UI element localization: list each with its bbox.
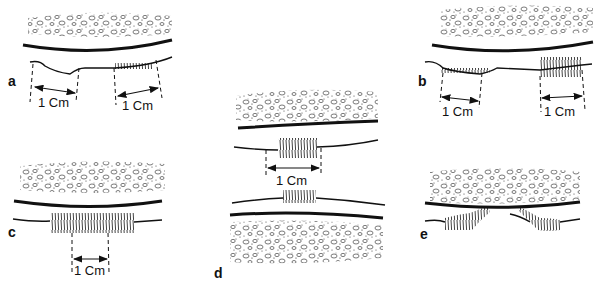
bone-block-icon — [236, 90, 378, 122]
panel-c: 1 Cm c — [8, 161, 165, 278]
measure-arrow — [442, 97, 478, 101]
lesion-hatch-icon — [115, 63, 153, 69]
measure-arrow — [118, 88, 158, 96]
lesion-hatch-icon — [440, 68, 490, 73]
bone-margin-line — [23, 40, 172, 50]
dash-line — [108, 233, 109, 272]
panel-e: e — [420, 168, 580, 242]
bone-block-icon — [230, 221, 383, 264]
lesion-hatch-icon — [445, 206, 490, 230]
bone-margin-line — [432, 42, 593, 51]
bone-margin-line — [230, 213, 383, 218]
lesion-hatch-icon — [283, 190, 316, 203]
panel-letter: e — [420, 226, 428, 242]
measure-label: 1 Cm — [122, 98, 153, 113]
measure-arrow — [35, 87, 75, 93]
bone-margin-line — [14, 201, 162, 207]
measure-label: 1 Cm — [442, 104, 473, 119]
panel-letter: a — [8, 73, 16, 89]
measure-arrow — [542, 96, 582, 98]
panel-letter: b — [418, 73, 427, 89]
lesion-diagram: 1 Cm 1 Cm a 1 Cm 1 Cm b 1 Cm c — [0, 0, 601, 286]
dash-line — [30, 64, 33, 102]
bone-block-icon — [28, 12, 172, 37]
measure-label: 1 Cm — [74, 263, 105, 278]
panel-letter: d — [214, 265, 223, 281]
dash-line — [156, 60, 162, 98]
lesion-hatch-icon — [50, 213, 134, 233]
measure-label: 1 Cm — [276, 173, 307, 188]
lesion-hatch-icon — [540, 57, 582, 77]
lesion-hatch-icon — [278, 138, 317, 158]
bone-block-icon — [440, 5, 593, 36]
panel-a: 1 Cm 1 Cm a — [8, 12, 172, 113]
bone-block-icon — [430, 168, 580, 204]
panel-letter: c — [8, 224, 16, 240]
dash-line — [114, 68, 116, 105]
dash-line — [479, 73, 482, 108]
dash-line — [582, 70, 585, 110]
measure-label: 1 Cm — [544, 104, 575, 119]
measure-label: 1 Cm — [38, 95, 69, 110]
panel-d: 1 Cm d — [214, 90, 385, 281]
panel-b: 1 Cm 1 Cm b — [418, 5, 593, 119]
dash-line — [540, 76, 541, 112]
dash-line — [76, 68, 79, 102]
bone-margin-line — [238, 121, 378, 128]
bone-block-icon — [20, 161, 165, 193]
